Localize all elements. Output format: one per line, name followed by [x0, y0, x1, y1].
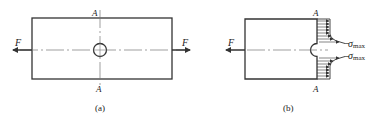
section-label-bottom-a: A [95, 84, 102, 94]
panel-a: F F A A (a) [13, 8, 190, 113]
panel-b: F σmax [226, 8, 365, 113]
stress-arrows-lower [317, 58, 339, 76]
caption-a: (a) [95, 103, 105, 113]
force-label-left-a: F [14, 37, 22, 48]
caption-b: (b) [283, 103, 294, 113]
force-label-right-a: F [181, 37, 189, 48]
stress-envelope-upper [317, 19, 345, 44]
section-label-top-a: A [91, 8, 98, 18]
sigma-max-label-upper: σmax [348, 38, 365, 50]
stress-concentration-figure: F F A A (a) F [0, 0, 378, 123]
plate-b [245, 19, 317, 79]
section-label-bottom-b: A [312, 84, 319, 94]
section-label-top-b: A [312, 8, 319, 18]
sigma-max-label-lower: σmax [348, 50, 365, 62]
stress-arrows-upper [317, 21, 339, 42]
stress-envelope-lower [317, 57, 345, 80]
force-label-left-b: F [227, 37, 235, 48]
